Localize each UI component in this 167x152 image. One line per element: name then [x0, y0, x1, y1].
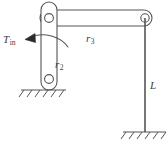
label-link-r2: r2 [55, 55, 64, 72]
label-link-r2-subscript: 2 [59, 63, 63, 72]
ground-support-left [19, 90, 66, 97]
mechanism-diagram: Tin r2 r3 L [0, 0, 167, 152]
pin-joint-upper-left [45, 14, 54, 23]
ground-support-right [121, 132, 166, 139]
pin-joint-lower-left [45, 75, 54, 84]
label-length-L: L [150, 80, 156, 91]
label-link-r3-subscript: 3 [90, 37, 94, 46]
label-input-torque-subscript: in [9, 38, 15, 47]
label-input-torque: Tin [3, 30, 15, 47]
mechanism-drawing [0, 0, 167, 152]
label-link-r3: r3 [86, 29, 95, 46]
